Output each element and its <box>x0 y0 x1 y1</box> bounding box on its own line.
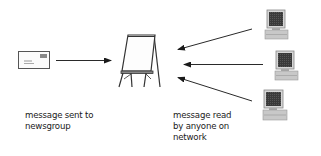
caption-line: newsgroup <box>25 121 93 132</box>
envelope-icon <box>19 52 50 69</box>
caption-message-read: message read by anyone on network <box>173 110 231 143</box>
caption-message-sent: message sent to newsgroup <box>25 110 93 132</box>
arrow-read-1 <box>178 29 252 50</box>
computer-icon <box>275 51 298 80</box>
computer-icon <box>263 90 287 120</box>
caption-line: network <box>173 132 231 143</box>
caption-line: message read <box>173 110 231 121</box>
arrow-read-3 <box>178 78 252 102</box>
caption-line: by anyone on <box>173 121 231 132</box>
easel-board-icon <box>119 35 160 87</box>
caption-line: message sent to <box>25 110 93 121</box>
computer-icon <box>265 10 288 39</box>
newsgroup-diagram <box>0 0 321 156</box>
